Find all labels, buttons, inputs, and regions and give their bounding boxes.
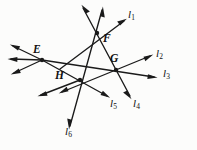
line-l2-arrow-end bbox=[144, 55, 154, 62]
vertex-dot-h bbox=[78, 78, 82, 82]
line-l4 bbox=[81, 5, 131, 99]
line-label-l1: l1 bbox=[128, 9, 135, 22]
line-label-l4: l4 bbox=[133, 98, 140, 111]
line-l2 bbox=[59, 55, 154, 94]
line-label-l6-subscript: 6 bbox=[68, 130, 72, 139]
line-label-l2-subscript: 2 bbox=[159, 52, 163, 61]
line-label-l1-subscript: 1 bbox=[131, 13, 135, 22]
ray-e-upper-left-arrow bbox=[10, 45, 20, 51]
point-label-e: E bbox=[33, 44, 41, 56]
vertex-dot-e bbox=[40, 58, 44, 62]
line-l5-arrow-end bbox=[101, 91, 111, 98]
point-label-h: H bbox=[55, 70, 64, 82]
ray-h-lower-left-arrow bbox=[38, 91, 48, 96]
vertex-dot-f bbox=[95, 31, 99, 35]
extra-ray-from-h bbox=[38, 80, 81, 96]
line-label-l6: l6 bbox=[65, 126, 72, 139]
point-label-g: G bbox=[110, 53, 118, 65]
line-label-l2: l2 bbox=[156, 48, 163, 61]
line-l4-arrow-start bbox=[81, 5, 90, 14]
line-l4-arrow-end bbox=[123, 90, 132, 99]
ray-e-left-arrow bbox=[8, 57, 18, 62]
ray-e-lower-left-arrow bbox=[11, 69, 21, 75]
line-label-l3: l3 bbox=[163, 68, 170, 81]
line-label-l5-subscript: 5 bbox=[113, 102, 117, 111]
vertex-dot-g bbox=[114, 68, 118, 72]
line-label-l3-subscript: 3 bbox=[166, 72, 170, 81]
line-l3-arrow-end bbox=[147, 74, 157, 79]
line-label-l4-subscript: 4 bbox=[136, 102, 140, 111]
geometry-figure: E F G H l1 l2 l3 l4 l5 l6 bbox=[0, 0, 197, 150]
point-label-f: F bbox=[103, 33, 111, 45]
line-label-l5: l5 bbox=[110, 98, 117, 111]
